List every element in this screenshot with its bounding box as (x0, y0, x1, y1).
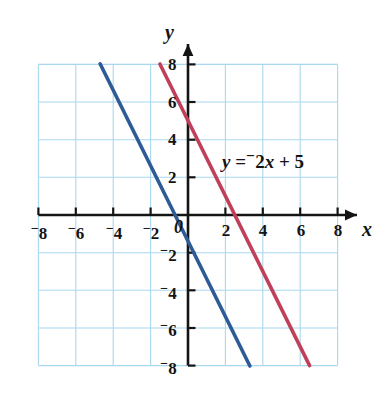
equation-equals: = (230, 151, 246, 172)
x-tick-label-neg4: −4 (103, 222, 125, 242)
x-tick-label-2: 2 (219, 222, 233, 239)
coordinate-plane-svg (0, 0, 386, 400)
equation-plus: + (274, 151, 294, 172)
y-tick-label-neg8: −8 (160, 357, 177, 377)
x-tick-label-6: 6 (294, 222, 308, 239)
y-tick-label-8: 8 (168, 56, 177, 73)
y-axis-label: y (165, 22, 174, 42)
x-tick-label-neg8: −8 (28, 222, 50, 242)
y-tick-label-neg4: −4 (160, 282, 177, 302)
equation-x-var: x (265, 151, 275, 172)
y-tick-label-neg2: −2 (160, 244, 177, 264)
equation-constant: 5 (295, 151, 305, 172)
graph-figure: −8 −6 −4 −2 2 4 6 8 8 6 4 2 −2 −4 −6 −8 … (0, 0, 386, 400)
x-tick-label-8: 8 (331, 222, 345, 239)
y-tick-label-4: 4 (168, 131, 177, 148)
equation-label-red-line: y =−2x + 5 (222, 148, 304, 171)
x-tick-label-4: 4 (256, 222, 270, 239)
equation-negative-sign: − (246, 147, 255, 164)
x-tick-label-neg2: −2 (140, 222, 162, 242)
y-axis-arrowhead (183, 44, 194, 56)
x-axis-label: x (362, 219, 372, 239)
y-tick-label-neg6: −6 (160, 319, 177, 339)
x-tick-label-neg6: −6 (65, 222, 87, 242)
y-tick-label-6: 6 (168, 94, 177, 111)
x-axis-arrowhead (345, 210, 357, 221)
y-tick-label-2: 2 (168, 169, 177, 186)
origin-label: 0 (174, 218, 183, 236)
equation-coefficient: 2 (255, 151, 265, 172)
